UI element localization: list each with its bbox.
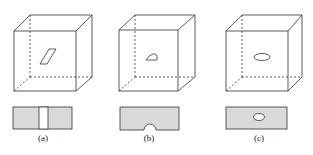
figure-canvas — [0, 0, 313, 155]
half-disc-inclusion — [146, 54, 157, 60]
panel-c-label: (c) — [254, 133, 264, 143]
parallelogram-inclusion — [40, 49, 56, 64]
panel-c-section — [226, 107, 287, 129]
panel-b-label: (b) — [144, 133, 155, 143]
ellipse-inclusion — [254, 54, 270, 61]
panel-a-section — [13, 107, 72, 129]
panel-a-label: (a) — [38, 133, 48, 143]
panel-b-section — [120, 107, 179, 130]
panel-b-cube — [119, 15, 195, 91]
panel-c-cube — [226, 15, 302, 91]
panel-a-cube — [14, 15, 92, 91]
